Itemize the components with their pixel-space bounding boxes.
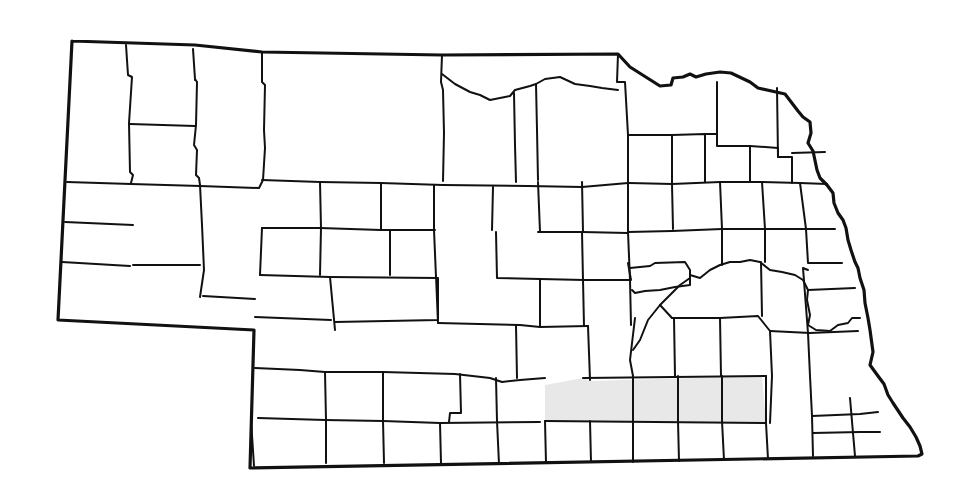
nebraska-county-map — [0, 0, 980, 497]
county-boundary-line — [449, 374, 461, 422]
county-boundary-line — [808, 288, 855, 290]
county-boundary-line — [255, 317, 331, 320]
county-boundary-line — [630, 262, 690, 293]
county-boundary-line — [628, 135, 672, 184]
county-boundary-line — [330, 277, 438, 322]
county-boundary-line — [660, 305, 770, 331]
county-boundary-line — [496, 378, 497, 421]
county-boundary-line — [496, 232, 540, 327]
county-boundary-line — [497, 421, 499, 464]
state-border — [58, 41, 922, 468]
county-boundary-line — [65, 222, 133, 225]
county-boundary-line — [617, 54, 628, 182]
county-boundary-line — [514, 93, 516, 182]
county-boundary-line — [126, 45, 133, 183]
county-boundary-line — [850, 398, 855, 456]
county-boundary-line — [260, 275, 335, 330]
map-canvas — [0, 0, 980, 497]
highlighted-counties — [545, 376, 766, 423]
county-boundary-line — [262, 180, 628, 187]
county-boundary-line — [770, 331, 772, 423]
county-boundary-line — [582, 182, 583, 232]
county-boundary-line — [720, 182, 722, 229]
county-boundary-line — [255, 368, 545, 382]
county-boundary-line — [812, 412, 878, 416]
county-boundary-line — [792, 152, 825, 153]
county-boundary-line — [588, 326, 590, 380]
county-boundary-line — [762, 182, 765, 229]
county-boundary-line — [750, 146, 792, 183]
county-boundary-line — [259, 52, 265, 188]
county-boundary-line — [260, 228, 262, 275]
county-boundary-line — [629, 182, 800, 184]
county-boundary-line — [67, 182, 258, 188]
county-boundary-line — [200, 185, 204, 297]
county-boundary-line — [440, 423, 441, 463]
county-boundary-line — [761, 262, 762, 316]
county-boundary-line — [438, 323, 588, 327]
county-boundary-line — [705, 134, 750, 182]
county-boundary-line — [808, 333, 813, 456]
county-boundary-line — [383, 421, 384, 463]
county-boundary-line — [628, 229, 806, 232]
county-boundary-line — [262, 228, 435, 230]
county-boundary-line — [672, 184, 673, 229]
county-boundary-line — [130, 124, 195, 126]
county-boundary-line — [434, 230, 436, 277]
county-boundary-line — [813, 432, 880, 433]
county-boundary-line — [674, 318, 675, 376]
county-boundary-line — [193, 49, 200, 185]
county-boundary-line — [720, 318, 721, 376]
county-boundary-line — [203, 296, 255, 299]
county-boundary-line — [672, 134, 705, 182]
county-boundary-line — [536, 84, 538, 180]
county-boundary-line — [442, 74, 618, 100]
county-boundary-line — [540, 279, 630, 280]
county-boundary-line — [690, 260, 860, 331]
county-boundary-line — [770, 331, 858, 333]
county-boundary-line — [590, 421, 591, 462]
county-boundary-line — [766, 423, 768, 459]
county-boundary-line — [806, 229, 842, 263]
county-boundary-line — [722, 421, 724, 460]
county-boundary-line — [492, 187, 493, 230]
county-boundary-line — [325, 372, 326, 420]
county-boundary-line — [516, 325, 517, 378]
county-boundary-line — [538, 182, 540, 232]
county-boundary-line — [545, 421, 546, 463]
county-boundary-line — [62, 262, 130, 266]
county-boundary-line — [777, 88, 778, 157]
county-boundary-line — [320, 182, 321, 275]
county-boundary-line — [678, 421, 679, 461]
